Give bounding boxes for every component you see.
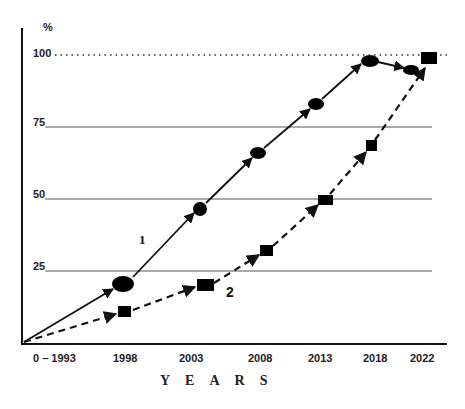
chart-canvas (0, 0, 465, 409)
marker-s1-1998 (112, 276, 134, 292)
marker-s2-2018 (366, 140, 377, 151)
x-tick-1998: 1998 (113, 352, 137, 364)
marker-s2-2013 (318, 195, 333, 205)
y-tick-75: 75 (33, 116, 45, 128)
marker-s2-2022 (421, 52, 437, 64)
marker-s1-2018 (361, 55, 379, 67)
series-1-label: 1 (139, 232, 146, 248)
x-tick-0-1993: 0 – 1993 (33, 352, 76, 364)
marker-s1-2003 (193, 202, 207, 216)
x-tick-2022: 2022 (410, 352, 434, 364)
x-tick-2003: 2003 (179, 352, 203, 364)
series-2-markers (118, 52, 437, 317)
marker-s2-1998 (118, 306, 131, 317)
marker-s2-2008 (260, 245, 273, 256)
y-tick-50: 50 (33, 188, 45, 200)
x-tick-2013: 2013 (308, 352, 332, 364)
x-axis-title: YEARS (160, 373, 282, 389)
y-tick-100: 100 (33, 47, 51, 59)
marker-s1-2022 (403, 65, 419, 75)
series-2-line (24, 68, 425, 342)
marker-s1-2008 (250, 147, 266, 159)
y-tick-25: 25 (33, 260, 45, 272)
x-tick-2008: 2008 (248, 352, 272, 364)
y-axis-unit: % (43, 21, 53, 33)
series-2-label: 2 (226, 284, 234, 300)
series-1-line (24, 62, 404, 342)
series-1-markers (112, 55, 419, 292)
marker-s1-2013 (308, 98, 324, 110)
x-tick-2018: 2018 (363, 352, 387, 364)
marker-s2-2003 (197, 279, 214, 291)
